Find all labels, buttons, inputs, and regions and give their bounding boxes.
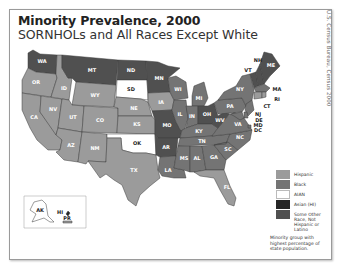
- label-il: IL: [177, 111, 183, 117]
- state-mi[interactable]: [192, 82, 208, 106]
- state-dc[interactable]: [248, 125, 251, 128]
- legend-item-hispanic: Hispanic: [276, 170, 330, 180]
- label-al: AL: [193, 155, 201, 161]
- label-wv: WV: [215, 117, 225, 123]
- label-id: ID: [61, 85, 67, 91]
- label-ky: KY: [195, 128, 203, 134]
- label-wi: WI: [174, 86, 182, 92]
- swatch-aian: [276, 190, 290, 199]
- state-de[interactable]: [244, 112, 248, 118]
- label-az: AZ: [67, 142, 75, 148]
- state-me[interactable]: [260, 52, 280, 84]
- label-nc: NC: [236, 134, 244, 140]
- label-ne: NE: [130, 105, 138, 111]
- label-ks: KS: [133, 121, 141, 127]
- label-ny: NY: [236, 86, 244, 92]
- state-pr[interactable]: [63, 221, 72, 223]
- label-tn: TN: [198, 138, 206, 144]
- label-ia: IA: [158, 99, 164, 105]
- legend-item-other: Some Other Race, Not Hispanic or Latino: [276, 210, 330, 232]
- swatch-asian: [276, 200, 290, 209]
- label-me: ME: [267, 62, 276, 68]
- label-ok: OK: [133, 140, 142, 146]
- label-nh: NH: [254, 57, 262, 63]
- label-hi: HI: [57, 209, 63, 215]
- label-mt: MT: [88, 67, 97, 73]
- label-va: VA: [234, 121, 242, 127]
- legend-item-aian: AIAN: [276, 190, 330, 200]
- label-pr: PR: [63, 215, 71, 221]
- legend-item-black: Black: [276, 180, 330, 190]
- state-ri[interactable]: [262, 92, 266, 98]
- label-nv: NV: [49, 106, 57, 112]
- swatch-other: [276, 210, 290, 219]
- legend: Hispanic Black AIAN Asian (HI) Some Othe…: [276, 170, 330, 232]
- swatch-black: [276, 180, 290, 189]
- label-ar: AR: [162, 144, 170, 150]
- label-sd: SD: [127, 86, 135, 92]
- label-wa: WA: [37, 58, 46, 64]
- label-co: CO: [96, 117, 104, 123]
- label-oh: OH: [203, 111, 211, 117]
- label-mn: MN: [154, 75, 163, 81]
- label-tx: TX: [130, 167, 137, 173]
- label-vt: VT: [244, 67, 252, 73]
- label-nm: NM: [90, 145, 99, 151]
- label-ri: RI: [274, 96, 280, 102]
- state-ct[interactable]: [254, 92, 262, 99]
- swatch-hispanic: [276, 170, 290, 179]
- label-wy: WY: [90, 92, 100, 98]
- label-dc: DC: [254, 127, 262, 133]
- label-sc: SC: [224, 146, 232, 152]
- label-in: IN: [189, 113, 195, 119]
- label-ms: MS: [180, 155, 189, 161]
- label-or: OR: [32, 79, 40, 85]
- label-ga: GA: [210, 154, 218, 160]
- legend-note: Minority group with highest percentage o…: [270, 235, 330, 252]
- label-nd: ND: [127, 67, 135, 73]
- label-ut: UT: [69, 114, 77, 120]
- label-ct: CT: [263, 103, 271, 109]
- label-fl: FL: [224, 184, 231, 190]
- label-mo: MO: [162, 122, 171, 128]
- label-ca: CA: [30, 114, 38, 120]
- label-la: LA: [164, 167, 171, 173]
- legend-item-asian: Asian (HI): [276, 200, 330, 210]
- label-pa: PA: [226, 103, 233, 109]
- label-ak: AK: [36, 207, 45, 213]
- label-mi: MI: [196, 95, 203, 101]
- label-ma: MA: [273, 86, 282, 92]
